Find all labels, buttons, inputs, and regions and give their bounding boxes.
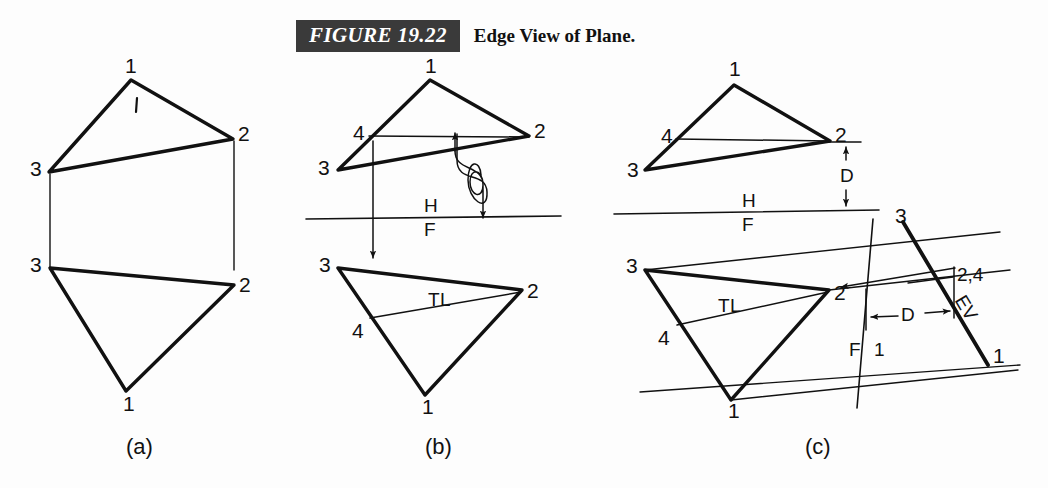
panel-c-true-length-label: TL bbox=[718, 296, 741, 315]
panel-c-dimension-d-top-label: D bbox=[840, 166, 854, 185]
panel-c-reference-label-f: F bbox=[742, 215, 754, 234]
panel-c-aux-vertex-1-label: 1 bbox=[993, 345, 1005, 366]
panel-b-top-vertex-2-label: 2 bbox=[534, 120, 546, 141]
panel-a-front-vertex-3-label: 3 bbox=[30, 254, 42, 275]
panel-c-front-vertex-4-label: 4 bbox=[658, 327, 670, 348]
panel-c-edge-view-line bbox=[903, 222, 988, 365]
panel-a-top-vertex-2-label: 2 bbox=[238, 123, 250, 144]
panel-b-front-vertex-4-label: 4 bbox=[352, 320, 364, 341]
panel-b-front-triangle bbox=[338, 268, 522, 395]
panel-a-projection-lines bbox=[50, 141, 234, 270]
panel-a-front-triangle bbox=[50, 268, 234, 391]
panel-a-top-vertex-3-label: 3 bbox=[30, 158, 42, 179]
panel-c-top-vertex-4-label: 4 bbox=[661, 125, 673, 146]
panel-c-reference-label-f-aux: F bbox=[849, 340, 861, 359]
panel-b-reference-label-h: H bbox=[424, 196, 438, 215]
panel-c-front-vertex-2-label: 2 bbox=[834, 282, 846, 303]
panel-c-aux-vertex-3-label: 3 bbox=[895, 205, 907, 226]
panel-c-dimension-d-aux-label: D bbox=[901, 305, 915, 324]
figure-container: FIGURE 19.22 Edge View of Plane. bbox=[0, 0, 1048, 488]
panel-c-top-vertex-2-label: 2 bbox=[835, 124, 847, 145]
panel-b-front-vertex-3-label: 3 bbox=[319, 254, 331, 275]
panel-a-top-triangle bbox=[49, 80, 233, 172]
panel-c-auxiliary-frame bbox=[640, 320, 1030, 392]
panel-c-line-4-2-top bbox=[676, 139, 830, 141]
panel-a-front-vertex-2-label: 2 bbox=[239, 274, 251, 295]
panel-b-top-vertex-3-label: 3 bbox=[318, 157, 330, 178]
panel-b-reference-label-f: F bbox=[424, 220, 436, 239]
panel-c-top-vertex-1-label: 1 bbox=[729, 58, 741, 79]
panel-b-front-vertex-1-label: 1 bbox=[422, 396, 434, 417]
panel-a-vertex-1-tick bbox=[136, 98, 137, 112]
panel-b-line-4-2-top bbox=[369, 136, 529, 137]
panel-b-top-vertex-4-label: 4 bbox=[353, 122, 365, 143]
panel-c-sublabel: (c) bbox=[805, 436, 831, 458]
panel-c-reference-label-h: H bbox=[742, 191, 756, 210]
panel-c-line-4-2-front bbox=[677, 292, 828, 325]
panel-b-front-vertex-2-label: 2 bbox=[527, 280, 539, 301]
figure-linework bbox=[0, 0, 1048, 488]
panel-a-sublabel: (a) bbox=[126, 436, 153, 458]
panel-c-top-vertex-3-label: 3 bbox=[627, 159, 639, 180]
panel-a-top-vertex-1-label: 1 bbox=[125, 55, 137, 76]
panel-b-sublabel: (b) bbox=[425, 436, 452, 458]
panel-b-top-vertex-1-label: 1 bbox=[425, 55, 437, 76]
panel-c-front-vertex-1-label: 1 bbox=[728, 400, 740, 421]
panel-b-top-triangle bbox=[338, 80, 529, 170]
panel-c-front-vertex-3-label: 3 bbox=[626, 255, 638, 276]
panel-b-true-length-label: TL bbox=[428, 290, 451, 309]
panel-c-reference-label-1-aux: 1 bbox=[874, 340, 885, 359]
panel-a-front-vertex-1-label: 1 bbox=[123, 393, 135, 414]
panel-c-aux-vertex-2-4-label: 2,4 bbox=[957, 265, 983, 284]
